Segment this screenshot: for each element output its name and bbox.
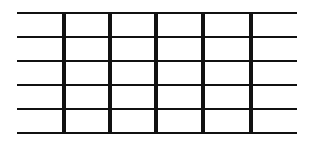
vertical-bar bbox=[154, 12, 158, 133]
grid-diagram bbox=[0, 0, 311, 143]
vertical-bar bbox=[108, 12, 112, 133]
vertical-bar bbox=[249, 12, 253, 133]
vertical-bar bbox=[201, 12, 205, 133]
vertical-bar bbox=[62, 12, 66, 133]
